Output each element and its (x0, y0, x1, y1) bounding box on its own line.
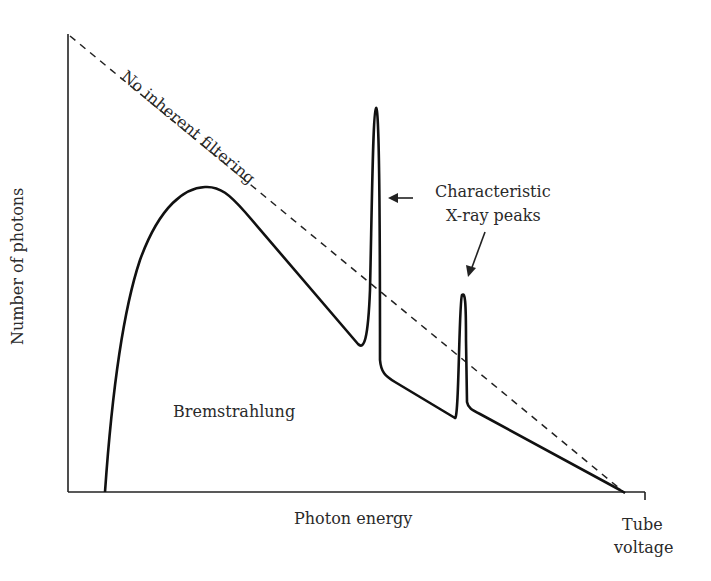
arrow-icon-second-peak (466, 232, 485, 277)
spectrum-curve (105, 108, 625, 493)
x-axis-end-label-voltage: voltage (613, 538, 673, 557)
annotation-characteristic-line2: X-ray peaks (446, 206, 541, 225)
spectrum-chart: No inherent filtering Characteristic X-r… (0, 0, 711, 581)
x-axis-end-label-tube: Tube (622, 515, 663, 534)
annotation-no-filtering: No inherent filtering (117, 66, 259, 187)
annotation-bremstrahlung: Bremstrahlung (173, 402, 295, 421)
y-axis-label: Number of photons (8, 188, 27, 345)
arrow-icon-first-peak (388, 193, 413, 203)
x-axis-label: Photon energy (294, 509, 412, 528)
annotation-characteristic-line1: Characteristic (435, 182, 551, 201)
